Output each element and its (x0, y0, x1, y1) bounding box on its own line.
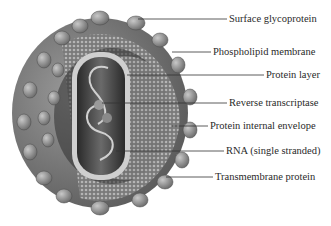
label-protein-internal-envelope: Protein internal envelope (210, 120, 316, 132)
virus-diagram (0, 0, 331, 226)
label-surface-glycoprotein: Surface glycoprotein (229, 13, 317, 25)
virus-core (72, 52, 130, 180)
label-phospholipid-membrane: Phospholipid membrane (213, 46, 315, 58)
label-transmembrane-protein: Transmembrane protein (215, 171, 315, 183)
label-reverse-transcriptase: Reverse transcriptase (229, 97, 319, 109)
label-rna-single-stranded: RNA (single stranded) (226, 145, 321, 157)
label-protein-layer: Protein layer (266, 69, 320, 81)
